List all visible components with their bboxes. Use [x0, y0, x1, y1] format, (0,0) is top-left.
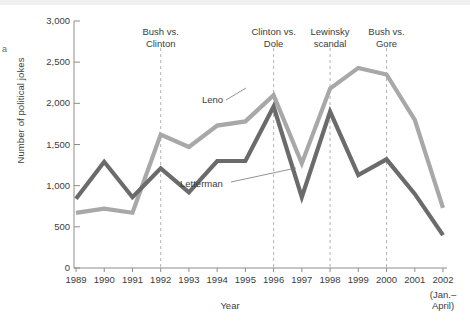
plot-area [0, 0, 470, 328]
series-line-letterman [76, 107, 443, 236]
chart-figure: a Number of political jokes Year 05001,0… [0, 0, 470, 328]
leader-line-letterman [231, 168, 296, 182]
leader-line-leno [226, 88, 246, 100]
series-line-leno [76, 68, 443, 213]
series-label-letterman: Letterman [180, 178, 223, 189]
series-label-leno: Leno [202, 94, 223, 105]
